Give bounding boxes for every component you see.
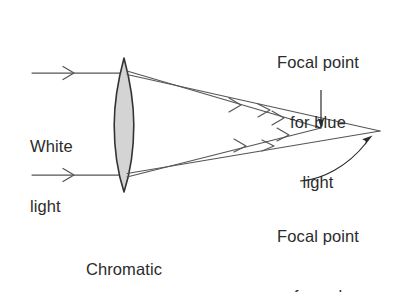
red-focal-point-label-line-1: Focal point [244,226,392,246]
biconvex-lens [114,58,134,192]
figure-caption-line-1: Chromatic [54,259,194,279]
white-light-label-line-1: White [30,136,73,156]
red-focal-point-label: Focal point for red light [244,186,392,292]
blue-focal-point-label-line-1: Focal point [244,52,392,72]
chromatic-aberration-figure: White light Focal point for blue light F… [0,0,411,292]
red-focal-point-label-line-2: for red [244,286,392,292]
white-light-label-line-2: light [30,196,73,216]
figure-caption: Chromatic abberation [54,219,194,292]
blue-focal-point-label-line-2: for blue [244,112,392,132]
